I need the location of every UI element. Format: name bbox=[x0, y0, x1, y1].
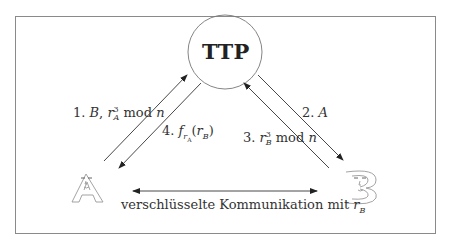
message-2-step: 2. bbox=[302, 105, 314, 120]
ttp-label: TTP bbox=[202, 39, 250, 64]
message-2-label: 2. A bbox=[302, 106, 328, 119]
message-4-step: 4. bbox=[162, 123, 174, 138]
message-1-label: 1. B, r3A mod n bbox=[73, 106, 165, 121]
message-1-step: 1. bbox=[73, 105, 85, 120]
channel-label: verschlüsselte Kommunikation mit rB bbox=[121, 198, 365, 215]
arrow-msg-3 bbox=[244, 83, 329, 168]
message-4-label: 4. frA(rB) bbox=[162, 124, 214, 142]
message-1-recipient: B bbox=[90, 105, 100, 120]
message-3-label: 3. r3B mod n bbox=[243, 131, 317, 146]
message-3-step: 3. bbox=[243, 130, 255, 145]
arrow-msg-2 bbox=[258, 75, 343, 160]
party-a-icon bbox=[72, 174, 103, 202]
